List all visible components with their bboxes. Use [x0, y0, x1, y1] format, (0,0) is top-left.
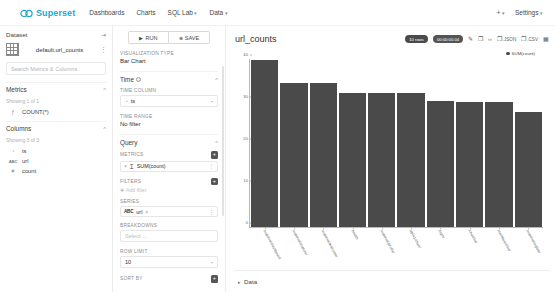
code-icon[interactable]: ‹›	[488, 36, 492, 42]
breakdowns-select[interactable]: Select ...	[120, 230, 218, 242]
column-item-url[interactable]: ABC url	[6, 156, 106, 166]
plus-icon: +	[496, 9, 500, 16]
more-options-icon[interactable]: ▦	[543, 36, 549, 42]
camera-icon[interactable]: ❐	[478, 36, 483, 42]
drag-handle-icon[interactable]: ⋮	[209, 163, 214, 169]
bar-item[interactable]: /health	[339, 59, 366, 227]
nav-item-sql-lab-label: SQL Lab	[168, 9, 193, 16]
add-filter-button[interactable]: ✚ Add filter	[120, 187, 218, 193]
nav-item-dashboards-label: Dashboards	[89, 9, 124, 16]
bar-item[interactable]: /superset/profile/	[368, 59, 395, 227]
bar-rect[interactable]	[485, 102, 512, 227]
bar-item[interactable]: /superset/dashboard/	[251, 59, 278, 227]
columns-section-title: Columns	[6, 125, 31, 132]
y-axis-tick: 30	[243, 94, 250, 99]
nav-item-settings[interactable]: Settings▾	[515, 9, 543, 16]
time-range-value[interactable]: No filter	[120, 121, 218, 127]
nav-item-charts[interactable]: Charts	[136, 9, 155, 16]
columns-section-header[interactable]: Columns ^	[6, 121, 106, 134]
hash-icon: #	[8, 168, 18, 174]
superset-mark-icon	[20, 4, 33, 22]
column-item-label: count	[22, 168, 36, 174]
sort-by-add-icon[interactable]: +	[211, 275, 219, 283]
edit-icon[interactable]: ✎	[468, 36, 473, 42]
save-button[interactable]: ⊕ SAVE	[169, 31, 210, 44]
control-panel-scrollbar[interactable]	[222, 66, 225, 216]
csv-download-icon[interactable]: ❐ .CSV	[521, 36, 538, 42]
dataset-selector[interactable]: default.url_counts ⋮	[6, 43, 106, 56]
metrics-section-header[interactable]: Metrics ^	[6, 82, 106, 95]
metric-item-count-star[interactable]: ƒ COUNT(*)	[6, 107, 106, 117]
data-drawer-label: Data	[244, 278, 257, 285]
clock-icon: ◔	[125, 99, 128, 104]
x-axis-label: /superset/profile/	[379, 229, 395, 254]
bar-item[interactable]: /dashboard/list/	[485, 59, 512, 227]
bar-rect[interactable]	[251, 60, 278, 227]
time-section-title: Time	[120, 76, 134, 83]
chevron-down-icon: ▾	[211, 260, 213, 265]
nav-right-group: +▾ Settings▾	[496, 9, 543, 16]
dataset-panel-header: Dataset ⇥	[6, 31, 106, 38]
json-download-icon[interactable]: ❐ .JSON	[497, 36, 517, 42]
data-drawer-toggle[interactable]: ▸ Data	[235, 270, 549, 292]
time-section-header[interactable]: Time i ^	[120, 71, 218, 88]
bar-rect[interactable]	[310, 83, 337, 227]
chart-legend[interactable]: SUM(count)	[506, 51, 535, 56]
chevron-down-icon: ▾	[194, 11, 197, 16]
nav-item-dashboards[interactable]: Dashboards	[89, 9, 124, 16]
superset-logo[interactable]: Superset	[20, 4, 75, 22]
sigma-icon: ∑	[130, 163, 134, 169]
json-download-label: .JSON	[503, 37, 517, 42]
remove-icon[interactable]: ×	[124, 163, 127, 169]
info-icon[interactable]: i	[136, 77, 142, 83]
x-axis-label: /api/v1/chart/	[409, 229, 422, 249]
code-glyph: ‹›	[488, 36, 492, 42]
bar-item[interactable]: /superset/sqllab/	[515, 59, 542, 227]
time-column-select[interactable]: ◔ ts ▾	[120, 95, 218, 107]
y-axis-tick: 20	[243, 136, 250, 141]
top-navbar: Superset Dashboards Charts SQL Lab▾ Data…	[0, 0, 555, 26]
time-range-label: Time Range	[120, 114, 218, 119]
bar-item[interactable]: /api/v1/chart/	[397, 59, 424, 227]
column-item-ts[interactable]: ◔ ts	[6, 146, 106, 156]
bar-item[interactable]: /chart/list/	[456, 59, 483, 227]
bar-rect[interactable]	[456, 102, 483, 227]
bar-rect[interactable]	[339, 93, 366, 227]
search-metrics-columns-input[interactable]: Search Metrics & Columns	[6, 62, 106, 75]
metric-pill-sum-count[interactable]: × ∑ SUM(count) ⋮	[120, 161, 218, 172]
filters-add-icon[interactable]: +	[211, 178, 219, 186]
bar-rect[interactable]	[280, 83, 307, 227]
action-button-row: ▶ RUN ⊕ SAVE	[120, 31, 218, 44]
metrics-add-icon[interactable]: +	[211, 151, 219, 159]
save-button-label: SAVE	[185, 35, 200, 41]
new-item-button[interactable]: +▾	[496, 9, 505, 16]
bar-rect[interactable]	[368, 93, 395, 227]
column-item-count[interactable]: # count	[6, 166, 106, 176]
row-limit-select[interactable]: 10 ▾	[120, 256, 218, 268]
chart-header-tools: 10 rows 00:00:00.04 ✎ ❐ ‹› ❐ .JSON ❐ .CS…	[405, 35, 549, 44]
viz-type-value[interactable]: Bar Chart	[120, 58, 218, 64]
bar-item[interactable]: /login/	[427, 59, 454, 227]
y-axis-tick: 40	[243, 52, 250, 57]
collapse-panel-icon[interactable]: ⇥	[101, 31, 106, 38]
explore-workspace: Dataset ⇥ default.url_counts ⋮ Search Me…	[0, 26, 555, 292]
bar-rect[interactable]	[397, 93, 424, 227]
remove-icon[interactable]: ×	[145, 209, 148, 215]
query-section-header[interactable]: Query ^	[120, 134, 218, 151]
nav-item-sql-lab[interactable]: SQL Lab▾	[168, 9, 198, 16]
dataset-menu-icon[interactable]: ⋮	[100, 47, 106, 52]
nav-item-data[interactable]: Data▾	[209, 9, 227, 16]
time-column-value: ts	[131, 98, 135, 104]
bar-rect[interactable]	[427, 101, 454, 227]
legend-swatch	[506, 52, 510, 56]
x-axis-label: /superset/explore/	[291, 229, 308, 256]
run-button[interactable]: ▶ RUN	[128, 31, 169, 44]
column-item-label: url	[22, 158, 28, 164]
legend-label: SUM(count)	[512, 51, 535, 56]
series-pill-url[interactable]: ABC url × ⋮	[120, 206, 218, 217]
drag-handle-icon[interactable]: ⋮	[209, 209, 214, 215]
bar-item[interactable]: /superset/welcome/	[310, 59, 337, 227]
bar-rect[interactable]	[515, 112, 542, 227]
bar-item[interactable]: /superset/explore/	[280, 59, 307, 227]
series-control-label: Series	[120, 199, 218, 204]
